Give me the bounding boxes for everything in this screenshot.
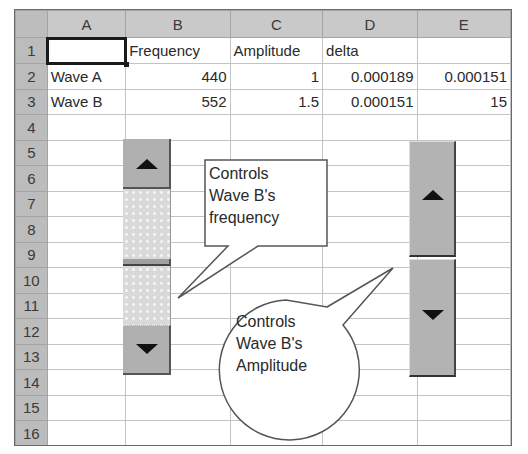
callout-line: frequency <box>209 207 279 229</box>
callout-line: Wave B's <box>209 185 279 207</box>
callout-line: Controls <box>209 163 279 185</box>
callout-line: Wave B's <box>236 333 307 355</box>
frequency-callout-text: Controls Wave B's frequency <box>209 163 279 229</box>
amplitude-callout-text: Controls Wave B's Amplitude <box>236 311 307 377</box>
callout-line: Amplitude <box>236 355 307 377</box>
callout-line: Controls <box>236 311 307 333</box>
